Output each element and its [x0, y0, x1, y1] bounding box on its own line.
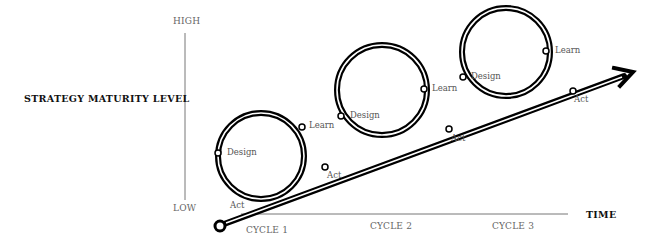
design-node [460, 74, 466, 80]
loop-1-act-label: Act [327, 170, 341, 180]
cycle-3-label: CYCLE 3 [492, 221, 534, 231]
loop-3-learn-label: Learn [555, 45, 580, 55]
loop-1-design-label: Design [227, 147, 257, 157]
loop-cycle-2 [337, 45, 427, 135]
cycle-1-label: CYCLE 1 [246, 225, 288, 235]
loop-3-act-label: Act [574, 94, 588, 104]
loop-1-learn-label: Learn [309, 120, 334, 130]
learn-node [421, 86, 427, 92]
x-axis-title: TIME [586, 209, 616, 220]
act-node-2 [446, 126, 452, 132]
start-act-label: Act [230, 200, 244, 210]
loop-2-design-label: Design [350, 110, 380, 120]
loop-cycle-3 [460, 8, 550, 96]
design-node [338, 113, 344, 119]
y-axis-high-label: HIGH [173, 16, 200, 26]
y-axis-low-label: LOW [173, 203, 196, 213]
y-axis-title: STRATEGY MATURITY LEVEL [24, 93, 190, 104]
start-node [215, 221, 225, 231]
cycle-2-label: CYCLE 2 [370, 221, 412, 231]
loop-2-learn-label: Learn [432, 83, 457, 93]
learn-node [543, 48, 549, 54]
learn-node [299, 124, 305, 130]
design-node [215, 150, 221, 156]
loop-2-act-label: Act [451, 133, 465, 143]
loop-3-design-label: Design [471, 71, 501, 81]
